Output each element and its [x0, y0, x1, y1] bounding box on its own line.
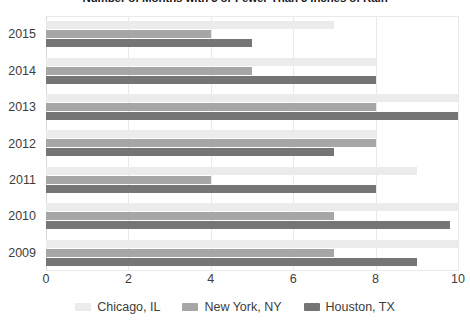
- legend-swatch-icon: [304, 303, 320, 311]
- chart-title: Number of Months with 3 or Fewer Than 3 …: [0, 0, 470, 4]
- bar-2015-houston-tx: [46, 39, 252, 47]
- legend-label: Chicago, IL: [97, 300, 160, 314]
- gridline-x-10: [458, 16, 459, 271]
- bar-group-2012: [46, 125, 458, 161]
- x-tick-label-2: 2: [125, 272, 132, 286]
- x-tick-label-4: 4: [207, 272, 214, 286]
- y-tick-label-2014: 2014: [8, 64, 36, 78]
- legend-label: New York, NY: [204, 300, 281, 314]
- bar-group-2011: [46, 162, 458, 198]
- bar-2011-chicago-il: [46, 167, 417, 175]
- legend-swatch-icon: [182, 303, 198, 311]
- legend-item-new-york-ny[interactable]: New York, NY: [182, 300, 281, 314]
- y-tick-label-2012: 2012: [8, 137, 36, 151]
- legend-swatch-icon: [75, 303, 91, 311]
- bar-2015-new-york-ny: [46, 30, 211, 38]
- legend-item-chicago-il[interactable]: Chicago, IL: [75, 300, 160, 314]
- plot-area: [46, 16, 458, 271]
- bar-2014-houston-tx: [46, 76, 376, 84]
- bar-2011-new-york-ny: [46, 176, 211, 184]
- y-tick-label-2013: 2013: [8, 100, 36, 114]
- bar-group-2010: [46, 198, 458, 234]
- chart-legend: Chicago, ILNew York, NYHouston, TX: [0, 300, 470, 314]
- bar-2010-chicago-il: [46, 203, 458, 211]
- y-tick-label-2011: 2011: [9, 173, 36, 187]
- bar-2009-chicago-il: [46, 240, 458, 248]
- y-tick-label-2015: 2015: [8, 27, 36, 41]
- bar-2010-houston-tx: [46, 221, 450, 229]
- bar-2013-chicago-il: [46, 94, 458, 102]
- x-tick-label-10: 10: [451, 272, 465, 286]
- bar-2013-houston-tx: [46, 112, 458, 120]
- bar-group-2013: [46, 89, 458, 125]
- x-tick-label-6: 6: [290, 272, 297, 286]
- bar-2012-new-york-ny: [46, 139, 376, 147]
- bar-chart: Number of Months with 3 or Fewer Than 3 …: [0, 0, 470, 331]
- y-tick-label-2010: 2010: [8, 209, 36, 223]
- bar-2010-new-york-ny: [46, 212, 334, 220]
- bar-2014-new-york-ny: [46, 67, 252, 75]
- bar-group-2015: [46, 16, 458, 52]
- bar-2015-chicago-il: [46, 21, 334, 29]
- bar-group-2009: [46, 235, 458, 271]
- bar-2009-new-york-ny: [46, 249, 334, 257]
- bar-2014-chicago-il: [46, 58, 376, 66]
- bar-2013-new-york-ny: [46, 103, 376, 111]
- bars-layer: [46, 16, 458, 271]
- bar-group-2014: [46, 52, 458, 88]
- bar-2012-houston-tx: [46, 148, 334, 156]
- legend-item-houston-tx[interactable]: Houston, TX: [304, 300, 395, 314]
- x-axis: 0246810: [46, 272, 458, 292]
- y-axis: 2015201420132012201120102009: [0, 16, 40, 271]
- y-tick-label-2009: 2009: [8, 246, 36, 260]
- x-tick-label-0: 0: [43, 272, 50, 286]
- bar-2012-chicago-il: [46, 130, 376, 138]
- bar-2011-houston-tx: [46, 185, 376, 193]
- bar-2009-houston-tx: [46, 258, 417, 266]
- legend-label: Houston, TX: [326, 300, 395, 314]
- x-tick-label-8: 8: [372, 272, 379, 286]
